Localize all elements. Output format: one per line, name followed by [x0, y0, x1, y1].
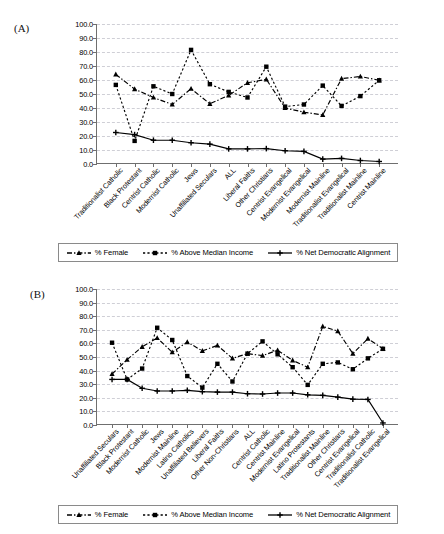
y-tick-label: 90.0 — [79, 34, 93, 43]
legend-item: % Female — [66, 248, 128, 258]
legend-a: % Female% Above Median Income% Net Democ… — [58, 243, 398, 262]
y-tick-label: 30.0 — [79, 380, 93, 389]
panel-b-label: (B) — [30, 288, 45, 300]
y-axis-labels-b: 0.010.020.030.040.050.060.070.080.090.01… — [62, 289, 96, 425]
y-tick-label: 80.0 — [79, 48, 93, 57]
x-axis-labels-a: Traditionalist CatholicBlack ProtestantC… — [96, 164, 398, 165]
y-tick-label: 0.0 — [83, 160, 93, 169]
y-tick-label: 60.0 — [79, 76, 93, 85]
series-line — [112, 328, 383, 388]
plot-area-a: 0.010.020.030.040.050.060.070.080.090.01… — [62, 24, 398, 164]
legend-plus-icon — [267, 510, 293, 520]
y-tick-label: 80.0 — [79, 312, 93, 321]
y-tick-label: 50.0 — [79, 90, 93, 99]
x-tick-label: ALL — [222, 166, 237, 181]
y-tick-label: 60.0 — [79, 339, 93, 348]
x-axis-labels-b: Unaffiliated SecularsBlack ProtestantMod… — [96, 425, 398, 426]
figure-root: (A) 0.010.020.030.040.050.060.070.080.09… — [0, 0, 444, 534]
plot-canvas-b — [96, 289, 398, 425]
plot-canvas-a — [96, 24, 398, 164]
series-layer — [97, 24, 398, 164]
plot-area-b: 0.010.020.030.040.050.060.070.080.090.01… — [62, 289, 398, 425]
panel-a: (A) 0.010.020.030.040.050.060.070.080.09… — [0, 0, 444, 272]
y-tick-label: 10.0 — [79, 146, 93, 155]
y-tick-label: 70.0 — [79, 62, 93, 71]
legend-label: % Above Median Income — [171, 248, 253, 257]
legend-item: % Female — [66, 510, 128, 520]
y-tick-label: 0.0 — [83, 421, 93, 430]
y-tick-label: 40.0 — [79, 104, 93, 113]
y-axis-labels-a: 0.010.020.030.040.050.060.070.080.090.01… — [62, 24, 96, 164]
legend-item: % Net Democratic Alignment — [267, 510, 390, 520]
legend-label: % Net Democratic Alignment — [296, 510, 390, 519]
legend-label: % Female — [95, 248, 128, 257]
y-tick-label: 20.0 — [79, 132, 93, 141]
y-tick-label: 90.0 — [79, 298, 93, 307]
legend-label: % Net Democratic Alignment — [296, 248, 390, 257]
legend-item: % Net Democratic Alignment — [267, 248, 390, 258]
series-line — [112, 379, 383, 423]
y-tick-label: 40.0 — [79, 366, 93, 375]
y-tick-label: 70.0 — [79, 325, 93, 334]
y-tick-label: 100.0 — [75, 20, 93, 29]
legend-square-icon — [142, 510, 168, 520]
legend-item: % Above Median Income — [142, 510, 253, 520]
legend-label: % Above Median Income — [171, 510, 253, 519]
legend-triangle-icon — [66, 248, 92, 258]
panel-a-label: (A) — [14, 22, 29, 34]
y-tick-label: 20.0 — [79, 393, 93, 402]
y-tick-label: 30.0 — [79, 118, 93, 127]
legend-triangle-icon — [66, 510, 92, 520]
series-line — [112, 326, 383, 374]
legend-label: % Female — [95, 510, 128, 519]
y-tick-label: 50.0 — [79, 353, 93, 362]
legend-plus-icon — [267, 248, 293, 258]
legend-item: % Above Median Income — [142, 248, 253, 258]
series-layer — [97, 289, 398, 425]
y-tick-label: 100.0 — [75, 285, 93, 294]
legend-b: % Female% Above Median Income% Net Democ… — [58, 505, 398, 524]
y-tick-label: 10.0 — [79, 407, 93, 416]
panel-b: (B) 0.010.020.030.040.050.060.070.080.09… — [0, 278, 444, 534]
legend-square-icon — [142, 248, 168, 258]
